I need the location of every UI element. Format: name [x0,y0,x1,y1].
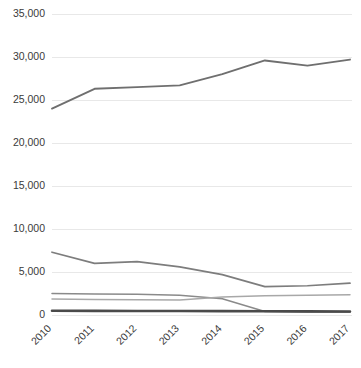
series-line-5 [52,311,350,312]
line-chart: 05,00010,00015,00020,00025,00030,00035,0… [0,0,361,368]
y-tick-label: 25,000 [13,93,45,105]
y-tick-label: 5,000 [19,265,45,277]
y-tick-label: 15,000 [13,179,45,191]
y-tick-label: 30,000 [13,50,45,62]
chart-canvas: 05,00010,00015,00020,00025,00030,00035,0… [0,0,361,368]
y-tick-label: 35,000 [13,7,45,19]
y-tick-label: 10,000 [13,222,45,234]
y-tick-label: 20,000 [13,136,45,148]
chart-background [0,0,361,368]
y-tick-label: 0 [39,308,45,320]
